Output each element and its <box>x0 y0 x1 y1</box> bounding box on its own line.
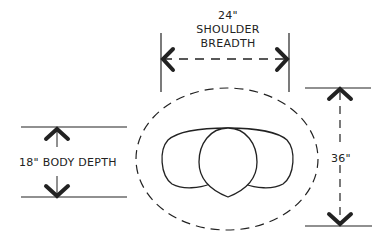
body-ellipse-diagram: 24" SHOULDER BREADTH 18" BODY DEPTH 36" <box>0 0 389 249</box>
head-outline <box>199 128 257 197</box>
body-depth-label: 18" BODY DEPTH <box>19 156 117 169</box>
shoulder-breadth-label-line2: BREADTH <box>200 37 255 50</box>
zone-depth-value: 36" <box>331 152 351 165</box>
shoulder-breadth-value: 24" <box>218 9 238 22</box>
arrow-down-icon <box>329 214 351 224</box>
shoulder-breadth-label-line1: SHOULDER <box>196 23 260 36</box>
body-plan-figure <box>162 128 293 197</box>
